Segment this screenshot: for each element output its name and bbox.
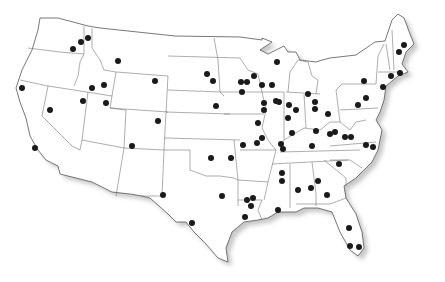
location-marker-icon [388, 73, 394, 79]
location-marker-icon [289, 130, 295, 136]
location-marker-icon [19, 85, 25, 91]
location-marker-icon [129, 143, 135, 149]
location-marker-icon [380, 84, 386, 90]
location-marker-icon [244, 197, 250, 203]
location-marker-icon [240, 142, 246, 148]
location-marker-icon [101, 82, 107, 88]
location-marker-icon [325, 111, 331, 117]
location-marker-icon [342, 134, 348, 140]
location-marker-icon [259, 135, 265, 141]
location-marker-icon [308, 185, 314, 191]
location-marker-icon [255, 120, 261, 126]
location-marker-icon [276, 99, 282, 105]
location-marker-icon [261, 107, 267, 113]
location-marker-icon [269, 82, 275, 88]
location-marker-icon [85, 35, 91, 41]
location-marker-icon [152, 78, 158, 84]
location-marker-icon [242, 214, 248, 220]
location-marker-icon [363, 142, 369, 148]
location-marker-icon [228, 155, 234, 161]
location-marker-icon [293, 107, 299, 113]
location-marker-icon [239, 89, 245, 95]
location-marker-icon [248, 203, 254, 209]
location-marker-icon [401, 42, 407, 48]
location-marker-icon [155, 118, 161, 124]
location-marker-icon [279, 170, 285, 176]
location-marker-icon [286, 102, 292, 108]
location-marker-icon [361, 78, 367, 84]
location-marker-icon [346, 225, 352, 231]
location-marker-icon [280, 146, 286, 152]
location-marker-icon [396, 49, 402, 55]
location-marker-icon [336, 161, 342, 167]
location-marker-icon [208, 155, 214, 161]
location-marker-icon [254, 140, 260, 146]
location-marker-icon [285, 115, 291, 121]
location-marker-icon [219, 193, 225, 199]
location-marker-icon [324, 192, 330, 198]
location-marker-icon [210, 78, 216, 84]
location-marker-icon [315, 178, 321, 184]
location-marker-icon [70, 46, 76, 52]
location-marker-icon [295, 187, 301, 193]
location-marker-icon [80, 98, 86, 104]
location-marker-icon [327, 131, 333, 137]
location-marker-icon [160, 192, 166, 198]
location-marker-icon [312, 99, 318, 105]
location-marker-icon [250, 195, 256, 201]
location-marker-icon [238, 79, 244, 85]
location-marker-icon [279, 178, 285, 184]
location-marker-icon [47, 107, 53, 113]
location-marker-icon [305, 91, 311, 97]
location-marker-icon [189, 220, 195, 226]
location-marker-icon [78, 39, 84, 45]
location-marker-icon [356, 244, 362, 250]
location-marker-icon [259, 82, 265, 88]
location-marker-icon [313, 128, 319, 134]
location-marker-icon [213, 103, 219, 109]
location-marker-icon [363, 95, 369, 101]
location-marker-icon [89, 85, 95, 91]
location-marker-icon [370, 144, 376, 150]
us-map [0, 0, 445, 282]
location-marker-icon [204, 71, 210, 77]
location-marker-icon [355, 102, 361, 108]
location-marker-icon [103, 100, 109, 106]
location-marker-icon [251, 73, 257, 79]
location-marker-icon [275, 207, 281, 213]
location-marker-icon [32, 145, 38, 151]
location-marker-icon [347, 243, 353, 249]
us-map-svg [0, 0, 445, 282]
location-marker-icon [261, 100, 267, 106]
country-outline [16, 14, 414, 262]
location-marker-icon [312, 106, 318, 112]
location-marker-icon [274, 59, 280, 65]
location-marker-icon [115, 58, 121, 64]
location-marker-icon [397, 70, 403, 76]
location-marker-icon [309, 143, 315, 149]
location-marker-icon [244, 79, 250, 85]
location-marker-icon [348, 134, 354, 140]
